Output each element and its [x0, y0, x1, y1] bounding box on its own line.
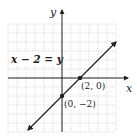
y-axis-label: y [49, 6, 57, 19]
equation-label: x − 2 = y [10, 53, 64, 65]
point-0-neg2 [60, 94, 64, 98]
x-axis-label: x [126, 82, 133, 95]
point-0-neg2-label: (0, −2) [64, 99, 96, 109]
point-2-0-label: (2, 0) [81, 81, 105, 91]
coordinate-plane: x y (2, 0) (0, −2) x − 2 = y [0, 0, 137, 139]
point-2-0 [78, 76, 82, 80]
